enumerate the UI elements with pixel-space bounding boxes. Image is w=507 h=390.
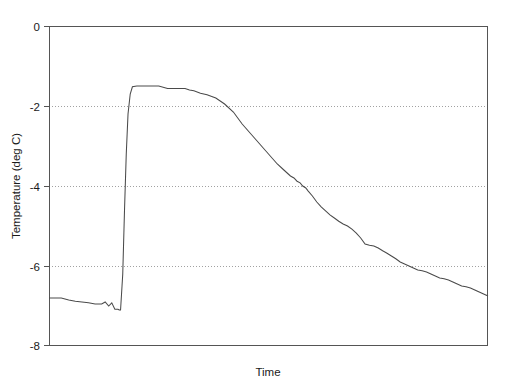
y-axis-tick-labels: 0 -2 -4 -6 -8	[30, 21, 41, 352]
y-tick-label--4: -4	[30, 181, 41, 193]
gridlines	[49, 106, 488, 266]
x-axis-title: Time	[255, 366, 280, 378]
chart-figure: 0 -2 -4 -6 -8 Temperature (deg C) Time	[0, 0, 507, 390]
y-axis-title: Temperature (deg C)	[10, 133, 22, 239]
temperature-series-line	[49, 86, 488, 310]
y-tick-label--2: -2	[30, 101, 40, 113]
y-axis-tickmarks	[44, 27, 49, 346]
y-tick-label--8: -8	[30, 340, 40, 352]
y-tick-label--6: -6	[30, 261, 40, 273]
temperature-time-line-chart: 0 -2 -4 -6 -8 Temperature (deg C) Time	[0, 0, 507, 390]
y-tick-label-0: 0	[34, 21, 40, 33]
